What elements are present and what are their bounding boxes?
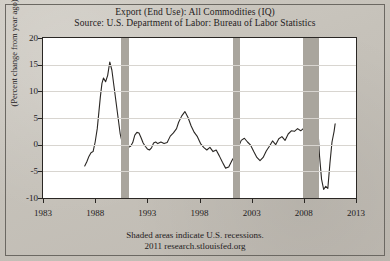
footnote-recessions: Shaded areas indicate U.S. recessions. [0,230,390,241]
plot-area [42,37,357,199]
x-tick-mark [304,199,305,203]
gridline [43,91,356,92]
footnote-source-url: 2011 research.stlouisfed.org [0,241,390,252]
x-tick-label: 2003 [232,209,272,218]
x-tick-label: 1993 [127,209,167,218]
x-tick-label: 2008 [284,209,324,218]
y-tick-label: -10 [16,194,38,203]
x-tick-mark [43,199,44,203]
chart-figure: Export (End Use): All Commodities (IQ) S… [0,0,390,261]
y-tick-label: 15 [16,60,38,69]
y-tick-label: -5 [16,167,38,176]
x-tick-mark [252,199,253,203]
gridline [43,65,356,66]
x-tick-label: 1983 [23,209,63,218]
y-tick-label: 5 [16,114,38,123]
gridline [43,145,356,146]
x-tick-mark [147,199,148,203]
chart-source-line: Source: U.S. Department of Labor: Bureau… [0,18,390,29]
x-tick-label: 1988 [75,209,115,218]
y-tick-label: 20 [16,34,38,43]
chart-footnote-block: Shaded areas indicate U.S. recessions. 2… [0,230,390,252]
y-tick-label: 0 [16,140,38,149]
plot-inner [43,38,356,198]
x-axis-ticks: 1983198819931998200320082013 [42,203,357,217]
x-tick-mark [95,199,96,203]
y-tick-label: 10 [16,87,38,96]
chart-title: Export (End Use): All Commodities (IQ) [0,7,390,18]
chart-title-block: Export (End Use): All Commodities (IQ) S… [0,7,390,29]
x-tick-mark [200,199,201,203]
x-tick-label: 1998 [180,209,220,218]
gridline [43,171,356,172]
x-tick-mark [356,199,357,203]
y-axis-ticks: -10-505101520 [0,37,38,199]
x-tick-label: 2013 [336,209,376,218]
gridline [43,118,356,119]
